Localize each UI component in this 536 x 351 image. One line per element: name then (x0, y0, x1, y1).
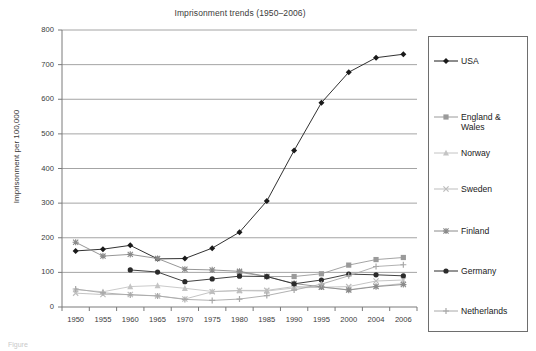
legend-item-germany[interactable]: Germany (433, 265, 527, 277)
figure-caption-fragment: Figure (8, 341, 328, 351)
x-tick-label: 1990 (279, 315, 309, 324)
y-tick-label: 300 (30, 198, 54, 207)
legend-label: Germany (459, 266, 496, 277)
legend-item-norway[interactable]: Norway (433, 147, 527, 159)
legend-item-usa[interactable]: USA (433, 55, 527, 67)
series-netherlands (73, 262, 407, 304)
legend-item-sweden[interactable]: Sweden (433, 183, 527, 195)
legend-item-netherlands[interactable]: Netherlands (433, 305, 527, 317)
legend-label: USA (459, 56, 479, 67)
x-tick-label: 1985 (252, 315, 282, 324)
x-tick-label: 2004 (361, 315, 391, 324)
legend-label: Sweden (459, 184, 492, 195)
data-series-layer (73, 51, 407, 303)
figure-imprisonment-trends: Imprisonment trends (1950–2006) Imprison… (0, 0, 536, 351)
x-tick-label: 2000 (334, 315, 364, 324)
x-tick-label: 1995 (306, 315, 336, 324)
series-usa (73, 51, 407, 262)
asterisk-marker (433, 225, 459, 237)
y-tick-label: 200 (30, 233, 54, 242)
y-tick-label: 0 (30, 302, 54, 311)
legend-label: Norway (459, 148, 490, 159)
plus-marker (433, 305, 459, 317)
y-tick-label: 700 (30, 60, 54, 69)
cross-x-marker (433, 183, 459, 195)
chart-legend: USAEngland & WalesNorwaySwedenFinlandGer… (428, 36, 528, 332)
x-tick-label: 1950 (61, 315, 91, 324)
diamond-marker (433, 55, 459, 67)
y-tick-label: 600 (30, 94, 54, 103)
legend-item-finland[interactable]: Finland (433, 225, 527, 237)
series-norway (73, 280, 407, 294)
y-tick-label: 800 (30, 25, 54, 34)
y-axis-ticks (58, 30, 62, 307)
y-tick-label: 500 (30, 129, 54, 138)
x-tick-label: 1960 (115, 315, 145, 324)
legend-label: Netherlands (459, 306, 507, 317)
x-tick-label: 1965 (143, 315, 173, 324)
legend-label: England & Wales (459, 112, 501, 133)
x-tick-label: 1980 (225, 315, 255, 324)
y-tick-label: 400 (30, 164, 54, 173)
x-axis-ticks (62, 307, 417, 311)
legend-label: Finland (459, 226, 489, 237)
circle-marker (433, 265, 459, 277)
x-tick-label: 1975 (197, 315, 227, 324)
triangle-marker (433, 147, 459, 159)
legend-item-england-wales[interactable]: England & Wales (433, 111, 527, 133)
x-tick-label: 1955 (88, 315, 118, 324)
square-marker (433, 111, 459, 123)
x-tick-label: 2006 (388, 315, 418, 324)
y-tick-label: 100 (30, 267, 54, 276)
x-tick-label: 1970 (170, 315, 200, 324)
gridlines (62, 30, 417, 307)
